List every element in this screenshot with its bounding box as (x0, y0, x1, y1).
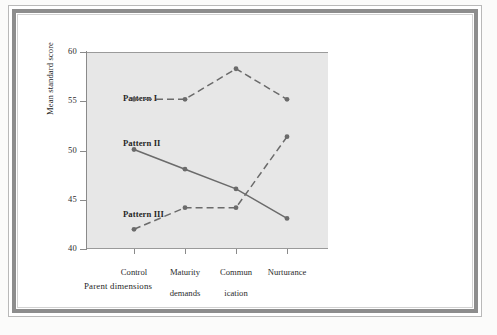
x-tick-3 (236, 249, 237, 254)
plot-area (86, 52, 328, 249)
x-tick-label-communication: Commun ication (220, 256, 252, 298)
y-tick-label-60: 60 (68, 46, 77, 56)
series-label-pattern-2: Pattern II (123, 138, 161, 148)
x-label-line-1: Nurturance (268, 267, 307, 277)
series-label-pattern-3: Pattern III (123, 209, 164, 219)
y-tick-label-40: 40 (68, 243, 77, 253)
y-tick-45: 45 (80, 200, 86, 201)
x-tick-2 (185, 249, 186, 254)
y-tick-50: 50 (80, 151, 86, 152)
y-axis-title: Mean standard score (45, 42, 55, 115)
x-tick-4 (287, 249, 288, 254)
x-label-line-1: Commun (220, 267, 252, 277)
series-label-pattern-1: Pattern I (123, 93, 157, 103)
y-tick-label-50: 50 (68, 145, 77, 155)
x-tick-label-control: Control (121, 256, 147, 277)
y-tick-55: 55 (80, 101, 86, 102)
x-axis-title: Parent dimensions (84, 281, 152, 291)
y-tick-label-55: 55 (68, 95, 77, 105)
x-tick-label-maturity-demands: Maturity demands (170, 256, 201, 298)
x-label-line-2: demands (170, 288, 201, 298)
x-label-line-1: Maturity (170, 267, 200, 277)
y-axis-line (86, 51, 87, 250)
y-tick-40: 40 (80, 249, 86, 250)
x-tick-label-nurturance: Nurturance (268, 256, 307, 277)
x-label-line-1: Control (121, 267, 147, 277)
x-tick-1 (134, 249, 135, 254)
line-chart: 40 45 50 55 60 Control Maturity demand (18, 15, 472, 307)
y-tick-label-45: 45 (68, 194, 77, 204)
y-tick-60: 60 (80, 52, 86, 53)
x-label-line-2: ication (224, 288, 247, 298)
figure-root: 40 45 50 55 60 Control Maturity demand (0, 0, 497, 335)
